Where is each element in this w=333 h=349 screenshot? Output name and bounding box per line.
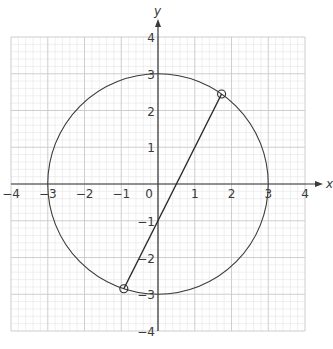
x-tick-label: 1 xyxy=(191,187,199,201)
y-tick-label: 3 xyxy=(147,68,155,82)
y-axis-arrow-icon xyxy=(155,19,161,27)
axes xyxy=(11,19,323,331)
x-tick-label: 0 xyxy=(145,187,153,201)
x-tick-label: 2 xyxy=(228,187,236,201)
y-tick-label: 4 xyxy=(147,31,155,45)
x-tick-label: 3 xyxy=(264,187,272,201)
y-tick-label: −2 xyxy=(137,252,155,266)
x-tick-label: 4 xyxy=(301,187,309,201)
x-axis-label: x xyxy=(325,177,333,191)
y-axis-label: y xyxy=(153,4,162,18)
y-tick-label: 2 xyxy=(147,105,155,119)
y-tick-label: −4 xyxy=(137,325,155,339)
plot-canvas: xy−4−3−2−1012344321−1−2−3−4 xyxy=(0,0,333,349)
tick-labels: xy−4−3−2−1012344321−1−2−3−4 xyxy=(2,4,333,339)
x-axis-arrow-icon xyxy=(315,181,323,187)
x-tick-label: −4 xyxy=(2,187,20,201)
y-tick-label: −3 xyxy=(137,288,155,302)
coordinate-diagram: xy−4−3−2−1012344321−1−2−3−4 xyxy=(0,0,333,349)
y-tick-label: 1 xyxy=(147,141,155,155)
x-tick-label: −1 xyxy=(112,187,130,201)
y-tick-label: −1 xyxy=(137,215,155,229)
x-tick-label: −3 xyxy=(39,187,57,201)
x-tick-label: −2 xyxy=(76,187,94,201)
